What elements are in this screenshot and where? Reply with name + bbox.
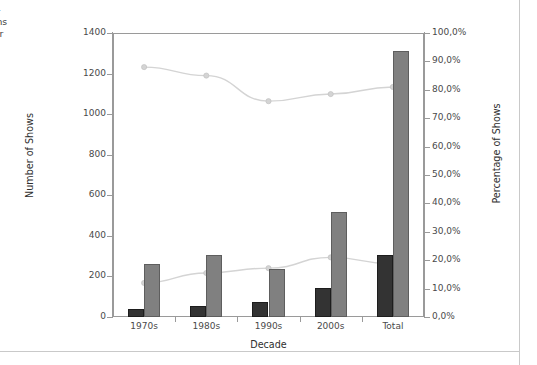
y-axis-right-tick xyxy=(424,147,430,148)
line-marker-series-0-1980s xyxy=(204,73,209,78)
bar-2000s-series-1 xyxy=(331,212,347,317)
y-axis-right-tick xyxy=(424,289,430,290)
y-axis-right-tick xyxy=(424,90,430,91)
y-axis-right-tick-label: 20,0% xyxy=(432,254,482,264)
y-axis-left-tick-label: 200 xyxy=(62,270,106,280)
y-axis-right-tick-label: 50,0% xyxy=(432,169,482,179)
bar-1970s-series-0 xyxy=(128,309,144,317)
y-axis-right-tick xyxy=(424,175,430,176)
y-axis-left-tick xyxy=(107,74,113,75)
y-axis-left-tick-label: 800 xyxy=(62,149,106,159)
chart-figure: Number of Shows Percentage of Shows Deca… xyxy=(0,0,519,351)
bar-1980s-series-1 xyxy=(206,255,222,317)
y-axis-left-tick-label: 0 xyxy=(62,311,106,321)
y-axis-right-tick-label: 60,0% xyxy=(432,141,482,151)
y-axis-right-tick-label: 30,0% xyxy=(432,226,482,236)
y-axis-right-tick-label: 80,0% xyxy=(432,84,482,94)
y-axis-left-tick xyxy=(107,33,113,34)
bar-1990s-series-1 xyxy=(269,269,285,317)
y-axis-right-tick-label: 70,0% xyxy=(432,112,482,122)
line-marker-series-0-1970s xyxy=(142,64,147,69)
y-axis-left-tick-label: 400 xyxy=(62,230,106,240)
y-axis-left-tick-label: 1000 xyxy=(62,108,106,118)
line-marker-series-0-1990s xyxy=(266,99,271,104)
y-axis-right-tick xyxy=(424,317,430,318)
y-axis-right-tick-label: 100,0% xyxy=(432,27,482,37)
bar-total-series-1 xyxy=(393,51,409,317)
y-axis-right-tick xyxy=(424,118,430,119)
x-axis-tick-label: 1970s xyxy=(113,321,175,331)
y-axis-left-tick xyxy=(107,236,113,237)
y-axis-right-tick xyxy=(424,203,430,204)
bar-1970s-series-1 xyxy=(144,264,160,317)
y-axis-left-tick xyxy=(107,155,113,156)
page-border-bottom xyxy=(0,351,519,352)
bar-1980s-series-0 xyxy=(190,306,206,317)
x-axis-tick-label: Total xyxy=(362,321,424,331)
x-axis-tick-label: 1980s xyxy=(175,321,237,331)
y-axis-left-tick xyxy=(107,276,113,277)
y-axis-right-tick-label: 90,0% xyxy=(432,55,482,65)
line-series-0 xyxy=(144,67,393,101)
bar-1990s-series-0 xyxy=(252,302,268,317)
line-marker-series-0-2000s xyxy=(328,91,333,96)
y-axis-left-tick-label: 1200 xyxy=(62,68,106,78)
bar-total-series-0 xyxy=(377,255,393,317)
y-axis-left-tick-label: 1400 xyxy=(62,27,106,37)
y-axis-right-tick-label: 0,0% xyxy=(432,311,482,321)
x-axis-tick-label: 1990s xyxy=(238,321,300,331)
y-axis-left-tick xyxy=(107,317,113,318)
y-axis-right-tick-label: 10,0% xyxy=(432,283,482,293)
x-axis-tick-label: 2000s xyxy=(300,321,362,331)
bar-2000s-series-0 xyxy=(315,288,331,317)
y-axis-right-tick xyxy=(424,260,430,261)
y-axis-right-tick xyxy=(424,232,430,233)
y-axis-left-tick xyxy=(107,114,113,115)
y-axis-right-tick xyxy=(424,33,430,34)
y-axis-right-tick xyxy=(424,61,430,62)
y-axis-right-tick-label: 40,0% xyxy=(432,197,482,207)
page-border-right xyxy=(519,0,520,365)
y-axis-left-tick xyxy=(107,195,113,196)
y-axis-left-tick-label: 600 xyxy=(62,189,106,199)
